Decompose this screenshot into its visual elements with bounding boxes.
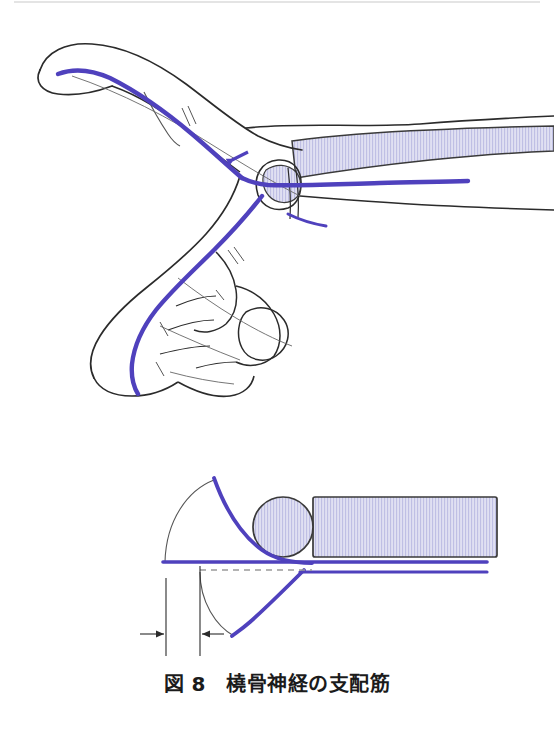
middle-finger-outline <box>236 286 280 356</box>
upper-panel <box>38 44 554 397</box>
muscle-band-horizontal <box>313 497 497 557</box>
middle-fingertip-outline <box>236 356 274 365</box>
forearm-outline-upper <box>246 116 554 128</box>
radial-nerve-dorsal-branch <box>58 71 242 178</box>
forearm-outline-lower <box>300 196 554 210</box>
finger-crease-4 <box>196 362 236 368</box>
figure-caption: 図 8 橈骨神経の支配筋 <box>0 668 554 697</box>
palm-ulnar-outline <box>91 176 240 378</box>
muscle-band-forearm <box>292 126 554 178</box>
figure-root: 図 8 橈骨神経の支配筋 <box>0 0 554 738</box>
anatomy-figure-canvas <box>0 0 554 738</box>
lower-panel <box>140 478 497 656</box>
thumb-pad-outline <box>239 308 289 360</box>
radial-nerve-stub <box>288 214 326 226</box>
index-fingertip-outline <box>194 324 226 332</box>
nerve-curve-lower <box>232 570 304 636</box>
arc-upper <box>165 480 214 562</box>
nerve-direction-arrowhead <box>232 152 248 160</box>
finger-crease-3 <box>160 346 210 354</box>
index-finger-outline <box>216 252 237 324</box>
finger-crease-2 <box>168 320 214 330</box>
ring-finger-outline <box>178 376 254 396</box>
hand-dorsum-outline <box>40 44 302 150</box>
arc-lower <box>200 572 234 636</box>
